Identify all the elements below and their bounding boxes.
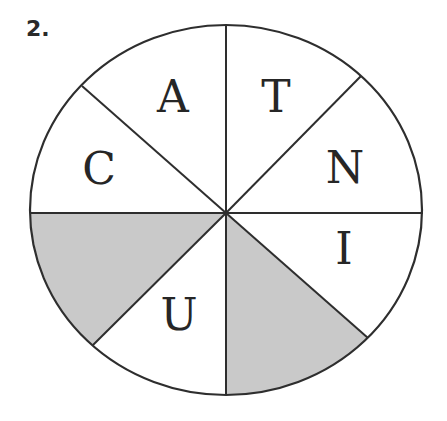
letter-t: T <box>261 71 290 122</box>
letter-u: U <box>160 289 197 340</box>
letter-n: N <box>326 142 365 193</box>
letter-c: C <box>82 143 116 194</box>
letter-wheel-diagram: A T C N I U <box>0 0 447 421</box>
letter-i: I <box>335 223 352 274</box>
letter-a: A <box>156 71 190 122</box>
